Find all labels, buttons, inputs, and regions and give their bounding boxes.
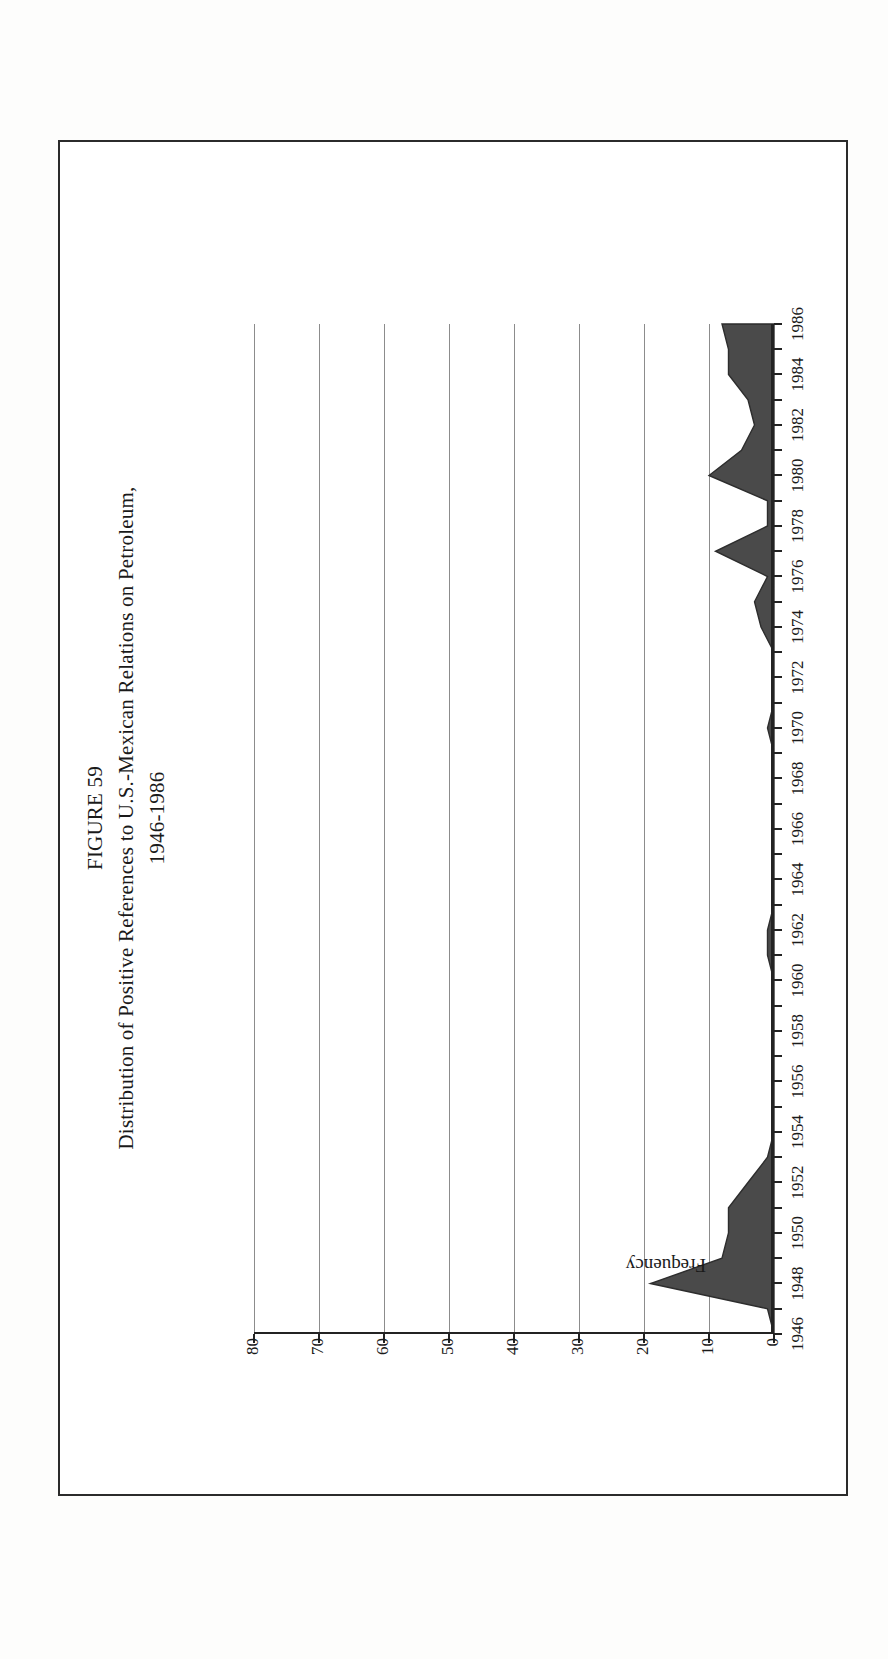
x-tick-label-1954: 1954 <box>788 1115 808 1149</box>
x-tick-label-1968: 1968 <box>788 762 808 796</box>
area-series-polygon <box>651 324 775 1334</box>
x-tick-1966 <box>774 828 782 830</box>
x-tick-1956 <box>774 1081 782 1083</box>
x-tick-1946 <box>774 1333 782 1335</box>
x-tick-1962 <box>774 929 782 931</box>
x-tick-1947 <box>774 1308 782 1310</box>
x-tick-label-1976: 1976 <box>788 560 808 594</box>
x-tick-label-1984: 1984 <box>788 358 808 392</box>
x-tick-1952 <box>774 1182 782 1184</box>
x-tick-1958 <box>774 1030 782 1032</box>
chart-canvas: 01020304050607080 1946194819501952195419… <box>254 324 774 1334</box>
x-tick-1976 <box>774 576 782 578</box>
x-tick-1972 <box>774 677 782 679</box>
y-tick-label-10: 10 <box>698 1338 718 1355</box>
x-tick-label-1970: 1970 <box>788 711 808 745</box>
y-tick-label-70: 70 <box>308 1338 328 1355</box>
area-series <box>254 324 774 1334</box>
y-tick-label-40: 40 <box>503 1338 523 1355</box>
rotated-figure-container: FIGURE 59 Distribution of Positive Refer… <box>58 140 848 1496</box>
x-tick-1953 <box>774 1156 782 1158</box>
x-tick-1971 <box>774 702 782 704</box>
y-tick-label-0: 0 <box>763 1338 783 1347</box>
x-tick-1950 <box>774 1232 782 1234</box>
figure-subtitle: 1946-1986 <box>142 140 173 1496</box>
x-tick-1973 <box>774 651 782 653</box>
x-tick-label-1962: 1962 <box>788 913 808 947</box>
x-tick-1960 <box>774 980 782 982</box>
x-tick-label-1986: 1986 <box>788 307 808 341</box>
x-tick-1959 <box>774 1005 782 1007</box>
x-tick-1979 <box>774 500 782 502</box>
x-tick-label-1956: 1956 <box>788 1065 808 1099</box>
x-tick-label-1960: 1960 <box>788 964 808 998</box>
x-tick-1977 <box>774 550 782 552</box>
y-tick-label-20: 20 <box>633 1338 653 1355</box>
x-tick-1951 <box>774 1207 782 1209</box>
x-tick-label-1948: 1948 <box>788 1267 808 1301</box>
x-tick-label-1980: 1980 <box>788 459 808 493</box>
x-tick-1967 <box>774 803 782 805</box>
x-tick-1984 <box>774 374 782 376</box>
figure-content: FIGURE 59 Distribution of Positive Refer… <box>58 140 848 1496</box>
x-tick-1964 <box>774 879 782 881</box>
x-tick-1963 <box>774 904 782 906</box>
x-tick-1978 <box>774 525 782 527</box>
x-tick-label-1952: 1952 <box>788 1166 808 1200</box>
x-tick-1985 <box>774 348 782 350</box>
x-tick-label-1964: 1964 <box>788 863 808 897</box>
figure-caption: FIGURE 59 Distribution of Positive Refer… <box>80 140 173 1496</box>
x-tick-label-1982: 1982 <box>788 408 808 442</box>
x-tick-label-1972: 1972 <box>788 661 808 695</box>
x-tick-1970 <box>774 727 782 729</box>
x-tick-1957 <box>774 1055 782 1057</box>
y-tick-label-60: 60 <box>373 1338 393 1355</box>
x-tick-1955 <box>774 1106 782 1108</box>
x-tick-1980 <box>774 475 782 477</box>
x-tick-1981 <box>774 449 782 451</box>
x-tick-label-1978: 1978 <box>788 509 808 543</box>
chart-plot-area: 01020304050607080 1946194819501952195419… <box>254 324 774 1334</box>
x-tick-1983 <box>774 399 782 401</box>
x-tick-label-1966: 1966 <box>788 812 808 846</box>
y-tick-label-50: 50 <box>438 1338 458 1355</box>
y-tick-label-80: 80 <box>243 1338 263 1355</box>
y-axis-title: Frequency <box>626 1254 706 1276</box>
y-tick-label-30: 30 <box>568 1338 588 1355</box>
x-tick-label-1974: 1974 <box>788 610 808 644</box>
x-tick-1975 <box>774 601 782 603</box>
x-tick-1974 <box>774 626 782 628</box>
x-tick-label-1958: 1958 <box>788 1014 808 1048</box>
x-tick-label-1946: 1946 <box>788 1317 808 1351</box>
x-tick-label-1950: 1950 <box>788 1216 808 1250</box>
figure-title: Distribution of Positive References to U… <box>111 140 142 1496</box>
x-tick-1949 <box>774 1257 782 1259</box>
scanned-page: FIGURE 59 Distribution of Positive Refer… <box>0 0 888 1659</box>
x-tick-1986 <box>774 323 782 325</box>
x-tick-1982 <box>774 424 782 426</box>
x-tick-1968 <box>774 778 782 780</box>
x-tick-1954 <box>774 1131 782 1133</box>
x-tick-1961 <box>774 954 782 956</box>
figure-number: FIGURE 59 <box>80 140 111 1496</box>
x-tick-1965 <box>774 853 782 855</box>
x-tick-1948 <box>774 1283 782 1285</box>
x-tick-1969 <box>774 752 782 754</box>
